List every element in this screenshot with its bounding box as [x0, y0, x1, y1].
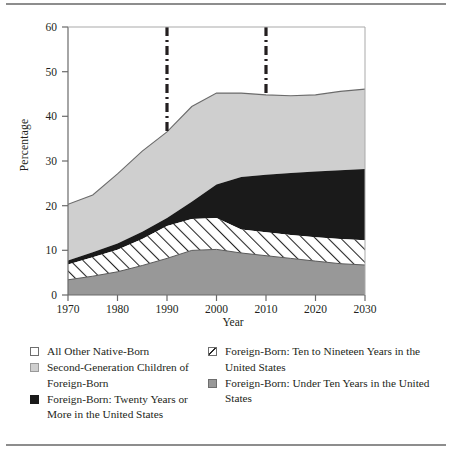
mid-gray-square-icon	[208, 379, 217, 388]
chart-canvas: 0 10 20 30 40 50 60 1970 1980 1990 2000 …	[0, 0, 452, 340]
legend-item-foreign-born-under-ten: Foreign-Born: Under Ten Years in the Uni…	[208, 376, 434, 407]
y-axis-ticks	[62, 27, 68, 295]
x-axis-tick-labels: 1970 1980 1990 2000 2010 2020 2030	[57, 303, 377, 315]
y-tick-60: 60	[46, 21, 58, 33]
y-axis-title: Percentage	[18, 90, 30, 200]
x-tick-2030: 2030	[354, 303, 377, 315]
y-tick-0: 0	[51, 289, 57, 301]
y-tick-10: 10	[46, 244, 58, 256]
black-square-icon	[30, 395, 39, 404]
x-axis-ticks	[68, 295, 365, 301]
x-axis-title-text: Year	[208, 316, 243, 328]
hatched-square-icon	[208, 347, 217, 356]
y-axis-tick-labels: 0 10 20 30 40 50 60	[46, 21, 58, 301]
legend-column-right: Foreign-Born: Ten to Nineteen Years in t…	[208, 344, 434, 407]
x-tick-2010: 2010	[255, 303, 278, 315]
stacked-area-chart: Percentage	[0, 0, 452, 340]
legend-item-foreign-born-twenty-plus: Foreign-Born: Twenty Years or More in th…	[30, 392, 210, 423]
legend-label-second-generation: Second-Generation Children of Foreign-Bo…	[47, 361, 189, 389]
legend-item-all-other-native-born: All Other Native-Born	[30, 344, 210, 360]
chart-legend: All Other Native-Born Second-Generation …	[0, 344, 452, 442]
bottom-divider-rule	[6, 444, 446, 446]
white-square-icon	[30, 347, 39, 356]
x-tick-2000: 2000	[205, 303, 228, 315]
x-tick-2020: 2020	[304, 303, 327, 315]
y-tick-40: 40	[46, 110, 58, 122]
legend-label-foreign-born-twenty-plus: Foreign-Born: Twenty Years or More in th…	[47, 393, 188, 421]
y-tick-20: 20	[46, 200, 58, 212]
y-tick-50: 50	[46, 66, 58, 78]
legend-label-foreign-born-ten-to-nineteen: Foreign-Born: Ten to Nineteen Years in t…	[225, 345, 420, 373]
y-tick-30: 30	[46, 155, 58, 167]
x-tick-1970: 1970	[57, 303, 80, 315]
x-tick-1980: 1980	[106, 303, 129, 315]
light-gray-square-icon	[30, 363, 39, 372]
legend-item-second-generation: Second-Generation Children of Foreign-Bo…	[30, 360, 210, 391]
x-axis-title: Year	[0, 316, 452, 328]
legend-label-foreign-born-under-ten: Foreign-Born: Under Ten Years in the Uni…	[225, 377, 430, 405]
x-tick-1990: 1990	[156, 303, 179, 315]
legend-column-left: All Other Native-Born Second-Generation …	[30, 344, 210, 423]
legend-label-all-other-native-born: All Other Native-Born	[47, 345, 149, 357]
legend-item-foreign-born-ten-to-nineteen: Foreign-Born: Ten to Nineteen Years in t…	[208, 344, 434, 375]
